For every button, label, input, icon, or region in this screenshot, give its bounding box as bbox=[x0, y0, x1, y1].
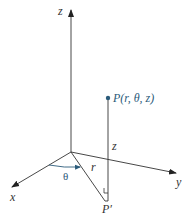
x-axis-label: x bbox=[9, 190, 16, 204]
theta-arc-arrow bbox=[49, 165, 80, 167]
y-axis bbox=[71, 152, 176, 173]
height-label: z bbox=[111, 139, 117, 153]
p-prime-label: P′ bbox=[101, 202, 112, 216]
radius-line bbox=[71, 152, 105, 201]
y-axis-label: y bbox=[175, 175, 182, 189]
right-angle-marker bbox=[104, 188, 108, 193]
theta-label: θ bbox=[63, 170, 68, 182]
z-axis-label: z bbox=[57, 4, 63, 18]
point-p-label: P(r, θ, z) bbox=[112, 91, 154, 105]
cylindrical-coordinates-diagram: z x y P(r, θ, z) z r θ P′ bbox=[0, 0, 186, 218]
radius-label: r bbox=[91, 160, 96, 174]
point-p bbox=[106, 96, 110, 100]
